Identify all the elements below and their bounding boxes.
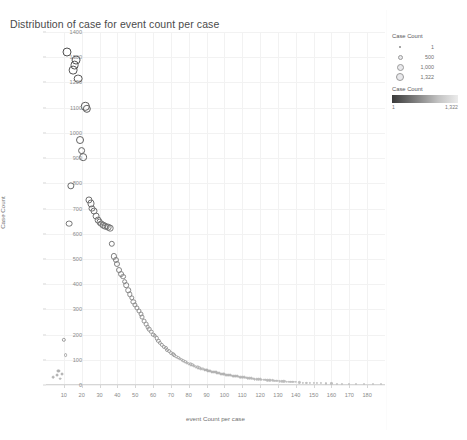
gridline-vertical [189,32,190,385]
scatter-point[interactable] [61,372,64,375]
size-legend-label: 1,000 [408,64,434,70]
y-axis-tick-label: 1100 [42,105,82,111]
y-axis-tick-mark [43,233,46,234]
scatter-point[interactable] [57,370,60,373]
y-axis-tick-label: 400 [42,281,82,287]
scatter-point[interactable] [83,105,91,113]
gridline-horizontal [46,259,385,260]
size-legend-circle [399,46,401,48]
x-axis-tick-label: 80 [186,392,192,398]
x-axis-tick-label: 140 [291,392,300,398]
size-legend[interactable]: Case Count 15001,0001,322 [392,33,434,82]
scatter-point[interactable] [107,225,114,232]
size-legend-label: 500 [408,54,434,60]
y-axis-tick-label: 900 [42,155,82,161]
scatter-point[interactable] [66,220,73,227]
color-gradient-bar [392,95,458,103]
scatter-point[interactable] [62,337,66,341]
y-axis-tick-mark [43,334,46,335]
x-axis-tick-label: 90 [203,392,209,398]
x-axis-tick-label: 10 [61,392,67,398]
x-axis-tick-label: 180 [362,392,371,398]
scatter-point[interactable] [52,376,55,379]
gridline-vertical [367,32,368,385]
size-legend-swatch [392,46,408,48]
scatter-point[interactable] [355,383,357,385]
gridline-vertical [135,32,136,385]
y-axis-tick-label: 600 [42,231,82,237]
x-axis-tick-mark [331,385,332,388]
gridline-vertical [100,32,101,385]
gridline-horizontal [46,385,385,386]
y-axis-tick-label: 0 [42,382,82,388]
x-axis-tick-mark [100,385,101,388]
gridline-vertical [278,32,279,385]
y-axis-tick-mark [43,284,46,285]
x-axis-tick-label: 40 [114,392,120,398]
size-legend-item[interactable]: 1,000 [392,62,434,72]
scatter-point[interactable] [114,261,120,267]
x-axis-tick-label: 150 [309,392,318,398]
gridline-horizontal [46,284,385,285]
scatter-point[interactable] [109,241,115,247]
size-legend-item[interactable]: 1,322 [392,72,434,82]
gridline-vertical [296,32,297,385]
scatter-point[interactable] [76,136,84,144]
scatter-point[interactable] [363,383,365,385]
gridline-horizontal [46,335,385,336]
size-legend-swatch [392,64,408,71]
color-legend[interactable]: Case Count 1 1,322 [392,86,458,110]
x-axis-tick-mark [260,385,261,388]
x-axis-tick-label: 130 [273,392,282,398]
color-legend-title: Case Count [392,86,458,92]
y-axis-tick-mark [43,158,46,159]
x-axis-tick-label: 160 [327,392,336,398]
x-axis-tick-label: 120 [255,392,264,398]
x-axis-tick-label: 110 [238,392,247,398]
x-axis-tick-label: 170 [345,392,354,398]
x-axis-tick-mark [171,385,172,388]
y-axis-tick-mark [43,32,46,33]
y-axis-tick-label: 1200 [42,79,82,85]
x-axis-tick-mark [82,385,83,388]
size-legend-item[interactable]: 1 [392,42,434,52]
gridline-vertical [242,32,243,385]
gridline-vertical [349,32,350,385]
gridline-vertical [314,32,315,385]
size-legend-title: Case Count [392,33,434,39]
size-legend-circle [398,55,403,60]
y-axis-tick-mark [43,132,46,133]
y-axis-tick-label: 700 [42,206,82,212]
x-axis-tick-label: 50 [132,392,138,398]
y-axis-tick-label: 100 [42,357,82,363]
gridline-vertical [331,32,332,385]
scatter-point[interactable] [59,377,62,380]
y-axis-tick-mark [43,309,46,310]
size-legend-item[interactable]: 500 [392,52,434,62]
gridline-horizontal [46,82,385,83]
gridline-horizontal [46,234,385,235]
x-axis-tick-mark [64,385,65,388]
gridline-vertical [224,32,225,385]
gridline-horizontal [46,158,385,159]
x-axis-tick-mark [242,385,243,388]
size-legend-rows: 15001,0001,322 [392,42,434,82]
x-axis-tick-mark [153,385,154,388]
gridline-horizontal [46,32,385,33]
y-axis-tick-label: 1300 [42,54,82,60]
color-legend-min: 1 [392,104,395,110]
x-axis-tick-label: 30 [96,392,102,398]
x-axis-tick-label: 20 [79,392,85,398]
scatter-point[interactable] [55,373,58,376]
scatter-point[interactable] [372,383,374,385]
x-axis-tick-mark [224,385,225,388]
size-legend-swatch [392,73,408,82]
scatter-point[interactable] [380,383,382,385]
gridline-horizontal [46,183,385,184]
x-axis-tick-mark [207,385,208,388]
x-axis-tick-mark [367,385,368,388]
scatter-plot-area[interactable] [46,32,385,385]
x-axis-tick-label: 70 [168,392,174,398]
x-axis-tick-label: 60 [150,392,156,398]
x-axis-tick-mark [189,385,190,388]
